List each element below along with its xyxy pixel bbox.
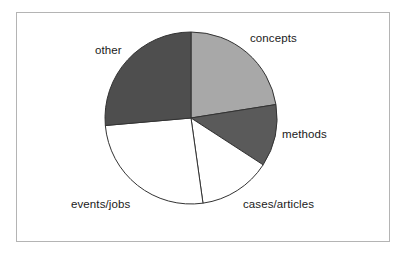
- figure-canvas: concepts methods cases/articles events/j…: [0, 0, 407, 255]
- pie-slice-events-jobs: [105, 118, 203, 204]
- pie-label-events-jobs: events/jobs: [71, 199, 130, 211]
- pie-label-other: other: [95, 45, 122, 57]
- pie-label-methods: methods: [282, 129, 327, 141]
- pie-slice-group: [105, 32, 277, 204]
- pie-slice-concepts: [191, 32, 276, 118]
- pie-chart: [0, 0, 407, 255]
- pie-label-concepts: concepts: [250, 33, 297, 45]
- pie-label-cases-articles: cases/articles: [243, 199, 314, 211]
